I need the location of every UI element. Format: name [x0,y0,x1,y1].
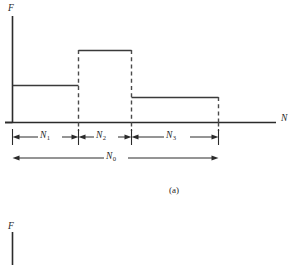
dimension-label-n0: N0 [106,152,116,162]
dimension-label-n3-base: N [166,130,172,140]
x-axis-label: N [281,114,287,124]
dimension-label-n0-subscript: 0 [113,155,116,162]
dimension-label-n3: N3 [166,131,176,141]
dimension-label-n2-subscript: 2 [103,134,106,141]
dimension-label-n1: N1 [40,131,50,141]
figure-container: F N N1 N2 N3 N0 (a) F [0,0,298,265]
figure-caption-a: (a) [169,186,179,195]
figure-b-y-axis-label: F [8,222,14,232]
dimension-label-n2-base: N [96,130,102,140]
dimension-label-n3-subscript: 3 [173,134,176,141]
dimension-label-n2: N2 [96,131,106,141]
dimension-label-n0-base: N [106,151,112,161]
y-axis-label: F [8,4,14,14]
dimension-label-n1-subscript: 1 [47,134,50,141]
dimension-label-n1-base: N [40,130,46,140]
